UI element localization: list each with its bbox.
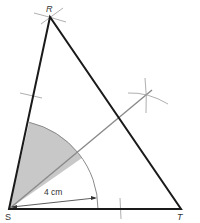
radius-arrow (12, 198, 95, 207)
vertex-label-s: S (5, 212, 11, 222)
measurement-label: 4 cm (44, 187, 62, 197)
arrowhead-right (91, 196, 97, 200)
vertex-label-t: T (177, 212, 184, 222)
triangle-construction-diagram: R S T 4 cm (0, 0, 200, 223)
vertex-label-r: R (46, 4, 53, 14)
construction-arc-1 (128, 93, 168, 104)
tick-mark-sr (20, 93, 42, 98)
